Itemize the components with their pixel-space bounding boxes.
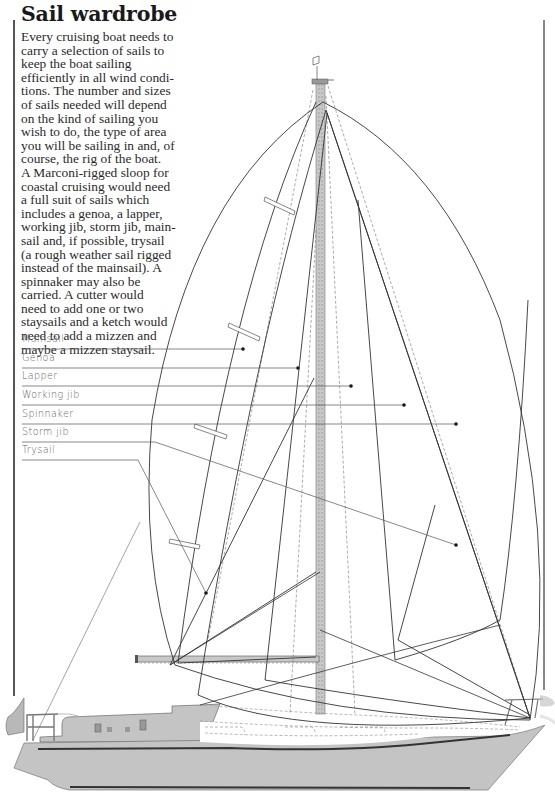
hull — [6, 695, 555, 790]
spinnaker-sail — [149, 102, 540, 720]
legend-label-working-jib: Working jib — [22, 389, 80, 400]
legend-label-mainsail: Mainsail — [22, 333, 64, 344]
sails — [149, 102, 540, 725]
boom — [135, 655, 319, 663]
legend-label-genoa: Genoa — [22, 352, 55, 363]
legend-label-trysail: Trysail — [22, 444, 55, 455]
sail-wardrobe-page: Sail wardrobe Every cruising boat needs … — [0, 0, 555, 802]
mast — [312, 56, 334, 714]
trysail — [170, 378, 316, 665]
rigging — [208, 86, 530, 718]
sail-plan-diagram — [0, 0, 555, 802]
ensign-flag-icon — [6, 698, 24, 735]
burgee-icon — [313, 56, 319, 65]
battens — [169, 197, 295, 549]
legend-leaders — [22, 347, 458, 594]
legend-label-lapper: Lapper — [22, 370, 58, 381]
genoa-sail — [198, 110, 530, 725]
legend-label-spinnaker: Spinnaker — [22, 408, 74, 419]
legend-label-storm-jib: Storm jib — [22, 426, 69, 437]
working-jib — [358, 200, 528, 660]
